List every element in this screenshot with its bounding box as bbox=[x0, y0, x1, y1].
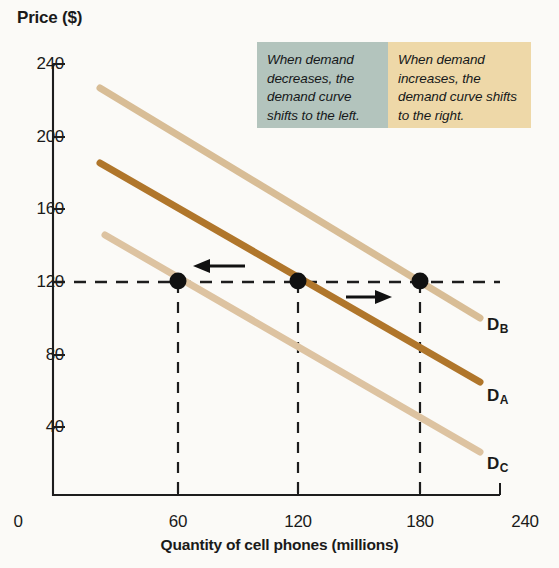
shift-left-arrow bbox=[193, 259, 245, 273]
shift-right-arrow bbox=[346, 290, 392, 304]
equilibrium-point-60 bbox=[170, 273, 187, 290]
equilibrium-point-120 bbox=[290, 273, 307, 290]
chart-plot-svg bbox=[0, 0, 559, 568]
x-axis-ticks bbox=[178, 483, 500, 495]
y-axis-ticks bbox=[53, 64, 65, 427]
demand-shift-chart: Price ($) 240 200 160 120 80 40 0 60 120… bbox=[0, 0, 559, 568]
demand-curve-da bbox=[100, 163, 480, 382]
equilibrium-point-180 bbox=[412, 273, 429, 290]
demand-curve-dc bbox=[105, 235, 480, 452]
axis-lines bbox=[53, 64, 500, 495]
